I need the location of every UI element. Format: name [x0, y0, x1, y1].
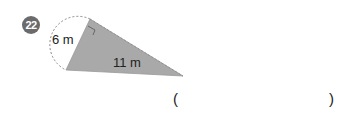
answer-open-paren: (: [173, 90, 178, 107]
label-11m: 11 m: [113, 55, 141, 70]
label-6m: 6 m: [52, 32, 74, 47]
answer-close-paren: ): [329, 90, 334, 107]
